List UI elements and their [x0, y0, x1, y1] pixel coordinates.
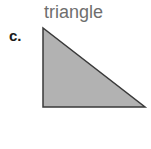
right-triangle-svg — [38, 23, 150, 113]
shape-name-label: triangle — [44, 1, 103, 23]
worksheet-item-c: c. triangle — [0, 0, 151, 149]
right-triangle-shape-icon — [38, 23, 150, 113]
triangle-polygon — [43, 28, 145, 107]
item-letter-label: c. — [9, 28, 22, 44]
